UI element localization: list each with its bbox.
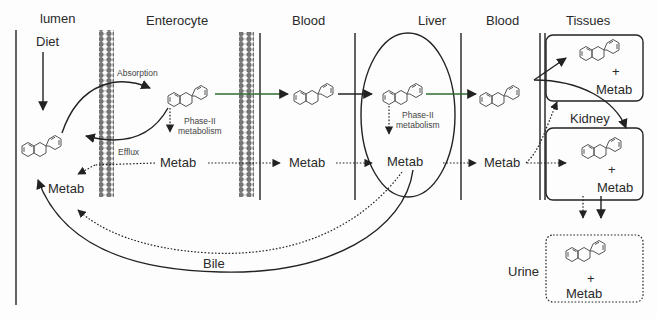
flavan-to-tissues-arrow — [534, 58, 566, 80]
header-enterocyte: Enterocyte — [146, 13, 208, 28]
diet-label: Diet — [36, 34, 60, 49]
header-lumen: lumen — [40, 11, 75, 26]
urine-plus: + — [587, 271, 595, 286]
header-blood-2: Blood — [486, 13, 519, 28]
urine-label: Urine — [508, 264, 539, 279]
flavan-molecule-kidney — [582, 138, 621, 159]
phase2-enterocyte-line1: Phase-II — [184, 116, 216, 126]
bile-label: Bile — [203, 256, 225, 271]
flavan-molecule-urine — [566, 241, 605, 262]
header-tissues: Tissues — [566, 13, 611, 28]
metab-kidney: Metab — [597, 180, 633, 195]
basolateral-membrane — [239, 32, 254, 197]
flavan-molecule-liver — [383, 84, 422, 105]
metab-enterocyte: Metab — [160, 155, 196, 170]
flavonoid-metabolism-diagram: lumen Enterocyte Blood Liver Blood Tissu… — [0, 0, 657, 319]
tissues-plus: + — [612, 64, 620, 79]
flavan-molecule-tissues — [580, 40, 619, 61]
flavan-molecule-enterocyte — [168, 86, 207, 107]
kidney-label: Kidney — [570, 111, 610, 126]
flavan-molecule-blood-2 — [480, 86, 519, 107]
efflux-label: Efflux — [118, 147, 140, 157]
absorption-label: Absorption — [117, 68, 158, 78]
metab-urine: Metab — [566, 286, 602, 301]
metab-liver: Metab — [387, 154, 423, 169]
apical-membrane — [99, 30, 114, 197]
flavan-molecule-blood-1 — [294, 84, 333, 105]
metab-tissues: Metab — [596, 82, 632, 97]
metab-to-tissues-arrow — [526, 102, 557, 163]
metab-efflux-arrow — [78, 165, 95, 174]
metab-lumen: Metab — [48, 181, 84, 196]
bile-return-arrow — [38, 170, 413, 272]
metab-blood-1: Metab — [289, 155, 325, 170]
header-liver: Liver — [418, 13, 447, 28]
phase2-enterocyte-line2: metabolism — [178, 126, 221, 136]
flavan-molecule-lumen — [22, 136, 61, 157]
kidney-plus: + — [608, 162, 616, 177]
efflux-arrow — [86, 108, 168, 140]
header-blood-1: Blood — [292, 13, 325, 28]
phase2-liver-line1: Phase-II — [402, 110, 434, 120]
phase2-liver-line2: metabolism — [396, 120, 439, 130]
metab-blood-2: Metab — [484, 155, 520, 170]
